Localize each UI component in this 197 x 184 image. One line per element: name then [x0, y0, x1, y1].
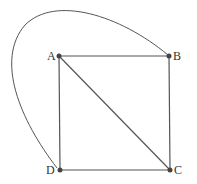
label-D: D: [46, 163, 55, 177]
label-C: C: [174, 163, 182, 177]
node-A: [57, 54, 62, 59]
edge-D-A: [59, 56, 60, 170]
edge-A-C: [59, 56, 170, 170]
label-B: B: [173, 49, 181, 63]
edge-B-C: [169, 56, 170, 170]
node-D: [58, 168, 63, 173]
graph-diagram: A B C D: [0, 0, 197, 184]
node-C: [168, 168, 173, 173]
label-A: A: [47, 49, 56, 63]
node-B: [167, 54, 172, 59]
